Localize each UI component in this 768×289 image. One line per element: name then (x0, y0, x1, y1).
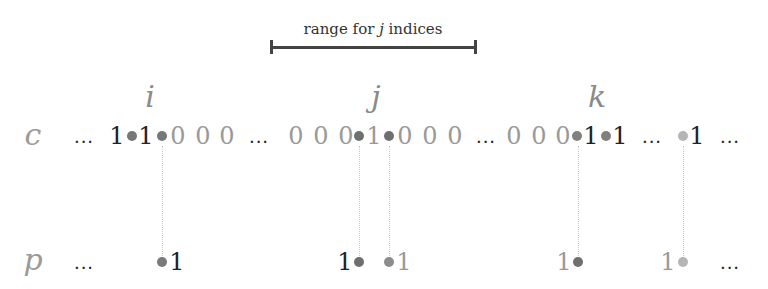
connector-line (683, 146, 684, 258)
ellipsis: ... (720, 128, 740, 146)
marker-dot-icon (354, 257, 364, 267)
ellipsis: ... (74, 128, 94, 146)
bit-one: 1 (109, 124, 124, 148)
marker-dot-icon (572, 131, 582, 141)
row-label-c: c (25, 120, 42, 150)
marker-dot-icon (384, 131, 394, 141)
bit-zero: 0 (397, 124, 412, 148)
marker-dot-icon (573, 257, 583, 267)
marker-dot-icon (157, 131, 167, 141)
marker-dot-icon (678, 257, 688, 267)
bit-zero: 0 (506, 124, 521, 148)
connector-line (578, 146, 579, 258)
bit-one: 1 (169, 250, 184, 274)
marker-dot-icon (127, 131, 137, 141)
bit-one: 1 (556, 250, 571, 274)
range-bar (271, 46, 476, 49)
marker-dot-icon (384, 257, 394, 267)
connector-line (359, 146, 360, 258)
index-label-j: j (371, 82, 380, 112)
bit-one: 1 (396, 250, 411, 274)
connector-line (389, 146, 390, 258)
connector-line (162, 146, 163, 258)
index-label-k: k (588, 82, 606, 112)
ellipsis: ... (74, 254, 94, 272)
marker-dot-icon (601, 131, 611, 141)
bit-one: 1 (583, 124, 598, 148)
range-label: range for j indices (304, 20, 443, 38)
bit-zero: 0 (531, 124, 546, 148)
bit-one: 1 (660, 250, 675, 274)
bit-zero: 0 (555, 124, 570, 148)
bit-zero: 0 (447, 124, 462, 148)
bit-zero: 0 (170, 124, 185, 148)
bit-zero: 0 (195, 124, 210, 148)
row-label-p: p (23, 245, 42, 275)
bit-zero: 0 (288, 124, 303, 148)
range-bar-right-cap (474, 40, 477, 54)
ellipsis: ... (249, 128, 269, 146)
bit-one: 1 (337, 250, 352, 274)
ellipsis: ... (720, 254, 740, 272)
marker-dot-icon (157, 257, 167, 267)
ellipsis: ... (476, 128, 496, 146)
bit-zero: 0 (338, 124, 353, 148)
index-label-i: i (145, 82, 155, 112)
ellipsis: ... (642, 128, 662, 146)
bit-zero: 0 (313, 124, 328, 148)
marker-dot-icon (354, 131, 364, 141)
range-label-suffix: indices (384, 20, 443, 38)
bit-zero: 0 (219, 124, 234, 148)
bit-one: 1 (138, 124, 153, 148)
range-label-prefix: range for (304, 20, 380, 38)
bit-zero: 0 (422, 124, 437, 148)
marker-dot-icon (678, 131, 688, 141)
bit-one: 1 (689, 124, 704, 148)
bit-one: 1 (612, 124, 627, 148)
bit-one: 1 (366, 124, 381, 148)
